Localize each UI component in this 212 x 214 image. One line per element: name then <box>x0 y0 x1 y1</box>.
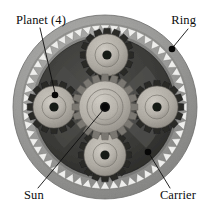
label-carrier: Carrier <box>160 188 197 202</box>
planet-bore <box>152 102 161 111</box>
leader-dot <box>169 46 176 53</box>
leader-dot <box>101 103 108 110</box>
figure-canvas: Planet (4) Ring Sun Carrier <box>0 0 212 214</box>
leader-dot <box>145 149 152 156</box>
planetary-gear-figure: Planet (4) Ring Sun Carrier <box>0 0 212 214</box>
planet-bore <box>100 150 109 159</box>
label-ring: Ring <box>171 13 196 27</box>
planet-bore <box>49 102 58 111</box>
label-planet: Planet (4) <box>16 13 66 27</box>
label-sun: Sun <box>24 188 44 202</box>
planet-right <box>130 80 184 134</box>
leader-dot <box>52 92 59 99</box>
planet-bore <box>102 50 111 59</box>
planet-top <box>80 28 134 82</box>
